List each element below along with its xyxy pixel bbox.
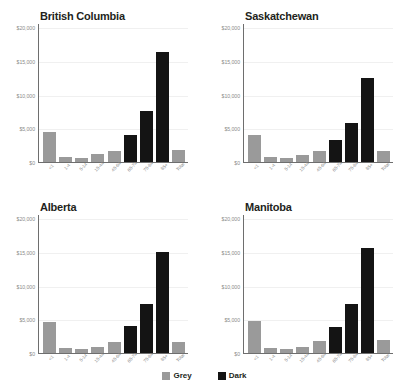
bar-slot bbox=[280, 28, 293, 162]
y-axis-tick-label: $15,000 bbox=[222, 250, 240, 256]
bar-slot bbox=[248, 219, 261, 353]
chart-panel: British Columbia$0$5,000$10,000$15,000$2… bbox=[0, 0, 204, 191]
y-axis-tick-label: $10,000 bbox=[17, 284, 35, 290]
bar bbox=[140, 111, 153, 162]
bar-slot bbox=[313, 219, 326, 353]
bar-slot bbox=[156, 219, 169, 353]
bar-slot bbox=[124, 28, 137, 162]
bar-slot bbox=[59, 219, 72, 353]
bar-slot bbox=[377, 28, 390, 162]
panel-title: Manitoba bbox=[245, 201, 292, 213]
bar bbox=[156, 52, 169, 162]
bar-slot bbox=[140, 28, 153, 162]
chart-panel: Alberta$0$5,000$10,000$15,000$20,000<11-… bbox=[0, 191, 204, 382]
bar-slot bbox=[345, 28, 358, 162]
y-axis-tick-label: $10,000 bbox=[222, 284, 240, 290]
bar bbox=[124, 326, 137, 353]
bar bbox=[248, 135, 261, 162]
bar-slot bbox=[264, 28, 277, 162]
bar bbox=[124, 135, 137, 162]
y-axis-tick-label: $0 bbox=[234, 351, 240, 357]
y-axis-tick-label: $15,000 bbox=[17, 250, 35, 256]
bar bbox=[156, 252, 169, 353]
plot-area: $0$5,000$10,000$15,000$20,000<11-45-1415… bbox=[38, 28, 188, 163]
legend-item: Grey bbox=[162, 372, 191, 380]
legend-label: Dark bbox=[229, 372, 247, 380]
bar-slot bbox=[361, 28, 374, 162]
bar-slot bbox=[59, 28, 72, 162]
bar-slot bbox=[124, 219, 137, 353]
bar bbox=[345, 304, 358, 353]
y-axis-tick-label: $0 bbox=[234, 160, 240, 166]
panel-title: Saskatchewan bbox=[245, 10, 318, 22]
bar bbox=[140, 304, 153, 353]
bar-slot bbox=[91, 219, 104, 353]
bar-slot bbox=[43, 219, 56, 353]
bar-slot bbox=[296, 28, 309, 162]
legend-item: Dark bbox=[218, 372, 247, 380]
bar bbox=[248, 321, 261, 353]
bar-slot bbox=[172, 28, 185, 162]
bar-slot bbox=[248, 28, 261, 162]
bar-slot bbox=[108, 28, 121, 162]
bar-group bbox=[244, 219, 393, 353]
legend-label: Grey bbox=[173, 372, 191, 380]
bar bbox=[345, 123, 358, 162]
plot-area: $0$5,000$10,000$15,000$20,000<11-45-1415… bbox=[243, 28, 393, 163]
bar-slot bbox=[43, 28, 56, 162]
y-axis-tick-label: $5,000 bbox=[19, 126, 35, 132]
bar-slot bbox=[280, 219, 293, 353]
x-axis-labels: <11-45-1415-4445-6465-7475-8485+Total bbox=[39, 356, 188, 361]
y-axis-tick-label: $5,000 bbox=[224, 317, 240, 323]
y-axis-tick-label: $10,000 bbox=[222, 93, 240, 99]
bar bbox=[361, 248, 374, 353]
y-axis-tick-label: $20,000 bbox=[17, 216, 35, 222]
legend-swatch bbox=[162, 372, 170, 380]
plot-area: $0$5,000$10,000$15,000$20,000<11-45-1415… bbox=[38, 219, 188, 354]
bar bbox=[43, 132, 56, 162]
small-multiples-bar-chart-figure: British Columbia$0$5,000$10,000$15,000$2… bbox=[0, 0, 409, 382]
bar-slot bbox=[156, 28, 169, 162]
bar bbox=[361, 78, 374, 162]
y-axis-tick-label: $0 bbox=[29, 351, 35, 357]
chart-legend: GreyDark bbox=[0, 372, 409, 382]
y-axis-tick-label: $0 bbox=[29, 160, 35, 166]
bar-slot bbox=[75, 219, 88, 353]
y-axis-tick-label: $20,000 bbox=[17, 25, 35, 31]
bar bbox=[43, 322, 56, 353]
bar-slot bbox=[140, 219, 153, 353]
bar-group bbox=[39, 219, 188, 353]
bar-slot bbox=[264, 219, 277, 353]
chart-panel: Saskatchewan$0$5,000$10,000$15,000$20,00… bbox=[205, 0, 409, 191]
bar-slot bbox=[91, 28, 104, 162]
panel-title: British Columbia bbox=[40, 10, 125, 22]
bar-slot bbox=[329, 219, 342, 353]
y-axis-tick-label: $20,000 bbox=[222, 25, 240, 31]
legend-swatch bbox=[218, 372, 226, 380]
chart-panel: Manitoba$0$5,000$10,000$15,000$20,000<11… bbox=[205, 191, 409, 382]
bar-slot bbox=[108, 219, 121, 353]
bar-slot bbox=[361, 219, 374, 353]
bar-slot bbox=[296, 219, 309, 353]
bar-slot bbox=[377, 219, 390, 353]
bar-slot bbox=[75, 28, 88, 162]
panel-title: Alberta bbox=[40, 201, 77, 213]
x-axis-labels: <11-45-1415-4445-6465-7475-8485+Total bbox=[39, 165, 188, 170]
y-axis-tick-label: $20,000 bbox=[222, 216, 240, 222]
x-axis-labels: <11-45-1415-4445-6465-7475-8485+Total bbox=[244, 356, 393, 361]
bar-slot bbox=[172, 219, 185, 353]
bar-group bbox=[244, 28, 393, 162]
bar-slot bbox=[329, 28, 342, 162]
y-axis-tick-label: $10,000 bbox=[17, 93, 35, 99]
x-axis-labels: <11-45-1415-4445-6465-7475-8485+Total bbox=[244, 165, 393, 170]
y-axis-tick-label: $5,000 bbox=[224, 126, 240, 132]
plot-area: $0$5,000$10,000$15,000$20,000<11-45-1415… bbox=[243, 219, 393, 354]
y-axis-tick-label: $15,000 bbox=[17, 59, 35, 65]
bar-group bbox=[39, 28, 188, 162]
y-axis-tick-label: $15,000 bbox=[222, 59, 240, 65]
y-axis-tick-label: $5,000 bbox=[19, 317, 35, 323]
bar-slot bbox=[313, 28, 326, 162]
bar-slot bbox=[345, 219, 358, 353]
bar bbox=[329, 140, 342, 162]
bar bbox=[329, 327, 342, 353]
